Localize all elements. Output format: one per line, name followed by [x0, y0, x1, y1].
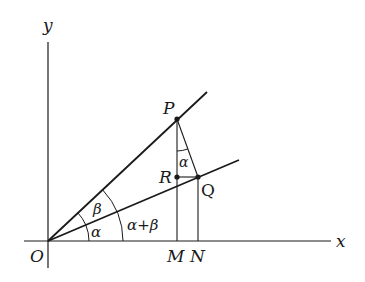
angle-label-beta-at-o: β: [92, 200, 102, 218]
point-r: [174, 174, 179, 179]
arc-beta-at-o: [78, 213, 86, 225]
arc-alpha-at-p: [177, 149, 188, 151]
label-m: M: [166, 246, 185, 266]
angle-label-alpha-plus-beta: α+β: [127, 216, 159, 234]
label-n: N: [189, 246, 206, 266]
point-p: [174, 116, 179, 121]
label-p: P: [162, 98, 175, 118]
angle-addition-diagram: y x O P R Q M N α β α+β α: [0, 0, 365, 282]
angle-label-alpha-at-p: α: [179, 154, 189, 170]
label-q: Q: [201, 180, 215, 200]
label-o: O: [30, 246, 44, 266]
label-r: R: [158, 167, 172, 187]
arc-alpha-at-o: [86, 225, 89, 241]
x-axis-label: x: [336, 231, 346, 251]
angle-label-alpha-at-o: α: [91, 223, 101, 241]
point-q: [195, 174, 200, 179]
y-axis-label: y: [42, 15, 53, 35]
